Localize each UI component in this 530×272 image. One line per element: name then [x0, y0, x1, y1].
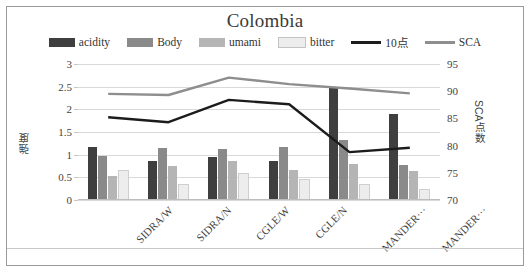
legend-label: 10点	[385, 34, 408, 50]
y-tick-right: 80	[447, 140, 458, 152]
line-series-sca[interactable]	[108, 78, 410, 95]
y-axis-title-right: SCA点数	[472, 100, 487, 144]
legend-item-10点[interactable]: 10点	[351, 34, 408, 50]
legend-item-acidity[interactable]: acidity	[49, 36, 110, 48]
y-tick-right: 85	[447, 112, 458, 124]
y-tick-right: 75	[447, 167, 458, 179]
legend-label: SCA	[459, 36, 481, 48]
y-axis-ticks-right: 707580859095	[444, 64, 474, 200]
y-axis-title-left: 強度	[16, 132, 31, 154]
legend-item-sca[interactable]: SCA	[425, 36, 481, 48]
y-tick-left: 1.5	[58, 126, 72, 138]
y-tick-left: 0	[67, 194, 73, 206]
x-axis-labels: SIDRA/WSIDRA/NCGLE/WCGLE/NMANDER···MANDE…	[78, 200, 440, 260]
x-axis-label: SIDRA/N	[193, 204, 233, 244]
legend-label: umami	[229, 36, 261, 48]
y-tick-left: 0.5	[58, 171, 72, 183]
legend-item-body[interactable]: Body	[127, 36, 182, 48]
x-axis-label: CGLE/W	[253, 204, 291, 242]
legend-swatch-icon	[127, 38, 153, 47]
plot-area	[78, 64, 440, 200]
legend-item-bitter[interactable]: bitter	[278, 36, 334, 48]
legend-label: acidity	[79, 36, 110, 48]
chart-title: Colombia	[0, 10, 530, 32]
chart-legend: acidityBodyumamibitter10点SCA	[0, 34, 530, 50]
legend-label: bitter	[310, 36, 334, 48]
legend-swatch-icon	[278, 37, 306, 48]
y-tick-left: 1	[67, 149, 73, 161]
line-series-10点[interactable]	[108, 100, 410, 152]
y-tick-right: 95	[447, 58, 458, 70]
y-tick-left: 2.5	[58, 81, 72, 93]
y-tick-left: 3	[67, 58, 73, 70]
legend-label: Body	[157, 36, 182, 48]
legend-item-umami[interactable]: umami	[199, 36, 261, 48]
y-axis-ticks-left: 00.511.522.53	[40, 64, 74, 200]
legend-swatch-icon	[49, 38, 75, 47]
y-tick-left: 2	[67, 103, 73, 115]
y-tick-right: 90	[447, 85, 458, 97]
chart-screenshot: Colombia acidityBodyumamibitter10点SCA 強度…	[0, 0, 530, 272]
x-axis-label: MANDER···	[379, 204, 429, 254]
y-tick-right: 70	[447, 194, 458, 206]
x-axis-label: SIDRA/W	[134, 204, 175, 245]
footer-divider	[7, 248, 523, 249]
legend-swatch-icon	[199, 38, 225, 47]
x-axis-label: CGLE/N	[313, 204, 350, 241]
line-series-layer	[78, 64, 440, 200]
